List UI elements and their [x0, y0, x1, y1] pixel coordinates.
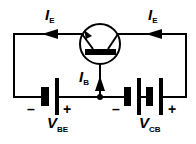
battery-vcb: [124, 78, 163, 115]
ib-label: IB: [79, 68, 89, 87]
vcb-label: VCB: [139, 114, 161, 134]
transistor-base-bar: [85, 49, 116, 55]
ie-right-arrow-icon: [146, 29, 162, 39]
vcb-negative-plate-2: [146, 87, 153, 106]
vbe-positive-plate: [55, 78, 59, 115]
transistor-symbol: [80, 24, 120, 64]
junction-dot: [97, 94, 103, 100]
vcb-plus-sign: +: [168, 101, 176, 117]
ie-right-label: IE: [148, 6, 158, 25]
vcb-positive-plate-2: [159, 78, 163, 115]
ie-left-label: IE: [45, 6, 55, 25]
vbe-negative-plate: [41, 87, 49, 106]
vbe-minus-sign: –: [27, 101, 35, 117]
ib-arrow-icon: [95, 76, 105, 91]
vcb-minus-sign: –: [112, 101, 120, 117]
circuit-diagram: IE IE IB VBE VCB – + – +: [0, 0, 196, 144]
battery-vbe: [41, 78, 59, 115]
transistor-envelope: [80, 24, 120, 64]
ie-left-arrow-icon: [42, 29, 58, 39]
vbe-label: VBE: [47, 114, 69, 134]
vbe-plus-sign: +: [63, 101, 71, 117]
vcb-positive-plate-1: [137, 78, 141, 115]
vcb-negative-plate-1: [124, 87, 131, 106]
